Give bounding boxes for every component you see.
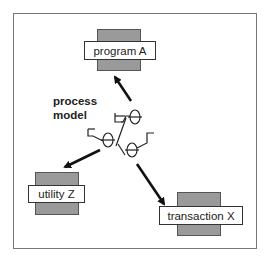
arrow-to-program-a — [115, 77, 131, 101]
arrow-to-utility-z — [65, 150, 100, 167]
arrow-to-transaction-x — [137, 164, 164, 204]
diagram-canvas: program A utility Z transaction X proces… — [0, 0, 272, 262]
diagram-graphics — [0, 0, 272, 262]
